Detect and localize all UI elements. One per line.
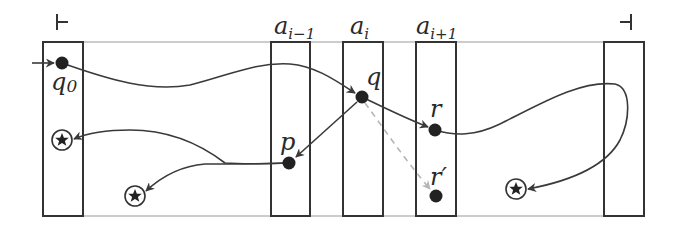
cell-label-a-i: ai (350, 12, 369, 43)
state-r (429, 124, 442, 137)
cell-label-a-i-minus-1: ai−1 (274, 12, 315, 43)
state-p (283, 157, 296, 170)
state-q (356, 91, 369, 104)
edge-p-to-star-lower (146, 163, 289, 191)
circled-star-icon (125, 186, 145, 206)
edge-p-to-star-left (74, 130, 289, 164)
state-label-r: r (430, 95, 443, 123)
left-endmarker-icon (57, 14, 68, 30)
circled-star-icon (52, 130, 72, 150)
automaton-run-diagram: ai−1 ai ai+1 q0 q p r r′ (0, 0, 675, 229)
edge-r-right-loop (435, 84, 628, 189)
edge-q0-to-q (62, 63, 355, 93)
right-endmarker-icon (620, 14, 631, 30)
state-label-q: q (366, 63, 381, 91)
cell-label-a-i-plus-1: ai+1 (416, 12, 457, 43)
state-r-prime (430, 190, 443, 203)
state-label-p: p (280, 128, 295, 156)
state-label-r-prime: r′ (430, 163, 447, 191)
circled-star-icon (506, 179, 526, 199)
